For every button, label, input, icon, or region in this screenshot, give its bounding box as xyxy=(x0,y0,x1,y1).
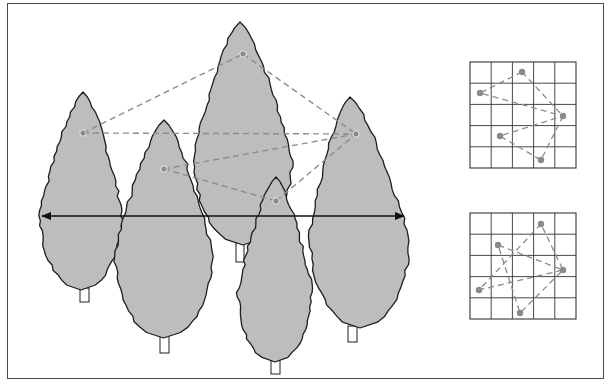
inset-point xyxy=(538,157,544,163)
inset-point xyxy=(538,221,544,227)
inset-point xyxy=(477,90,483,96)
grid-bottom xyxy=(470,213,576,319)
grid-top xyxy=(470,62,576,168)
inset-point xyxy=(560,267,566,273)
trunk xyxy=(236,243,244,262)
sample-point xyxy=(273,198,279,204)
canopy xyxy=(39,92,124,290)
figure: Five cypress-like trees with sampled poi… xyxy=(0,0,614,390)
trees-group xyxy=(39,22,409,374)
inset-point xyxy=(497,133,503,139)
canopy xyxy=(308,97,409,328)
trunk xyxy=(160,336,169,353)
tree-diagram xyxy=(0,0,614,390)
inset-point xyxy=(476,287,482,293)
grid-insets xyxy=(470,62,576,319)
sample-point xyxy=(80,130,86,136)
sample-point xyxy=(240,51,246,57)
tree-1 xyxy=(39,92,124,302)
trunk xyxy=(348,326,357,342)
inset-point xyxy=(517,310,523,316)
inset-point xyxy=(560,113,566,119)
sample-point xyxy=(161,166,167,172)
sample-point xyxy=(353,131,359,137)
inset-point xyxy=(495,242,501,248)
inset-point xyxy=(519,69,525,75)
